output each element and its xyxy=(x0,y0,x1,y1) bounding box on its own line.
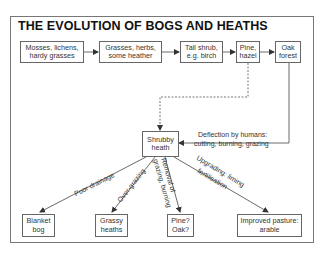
stage-label: hardy grasses xyxy=(29,52,74,61)
outcome-pine-oak: Pine? Oak? xyxy=(167,214,194,237)
outcome-grassy-heaths: Grassy heaths xyxy=(95,214,128,237)
outcome-label: bog xyxy=(33,226,45,235)
outcome-blanket-bog: Blanket bog xyxy=(22,214,55,237)
deflection-label-1: Deflection by humans: xyxy=(198,131,267,139)
stage-tall-shrub: Tall shrub, e.g. birch xyxy=(180,41,223,63)
stage-label: some heather xyxy=(109,52,153,61)
stage-label: e.g. birch xyxy=(187,52,217,61)
outcome-label: Oak? xyxy=(172,226,189,235)
stage-label: hazel xyxy=(239,52,256,61)
outcome-label: heaths xyxy=(101,226,123,235)
outcome-label: arable xyxy=(260,226,280,235)
stage-oak-forest: Oak forest xyxy=(275,41,301,63)
stage-label: forest xyxy=(279,52,297,61)
deflection-label-2: cutting, burning, grazing xyxy=(194,140,269,148)
outcome-improved-pasture: Improved pasture: arable xyxy=(237,214,302,237)
shrubby-heath-box: Shrubby heath xyxy=(142,131,179,157)
stage-grasses-herbs: Grasses, herbs, some heather xyxy=(99,41,162,63)
stage-pine-hazel: Pine, hazel xyxy=(236,41,260,63)
center-label: heath xyxy=(152,144,170,153)
stage-mosses-lichens: Mosses, lichens, hardy grasses xyxy=(20,41,84,63)
